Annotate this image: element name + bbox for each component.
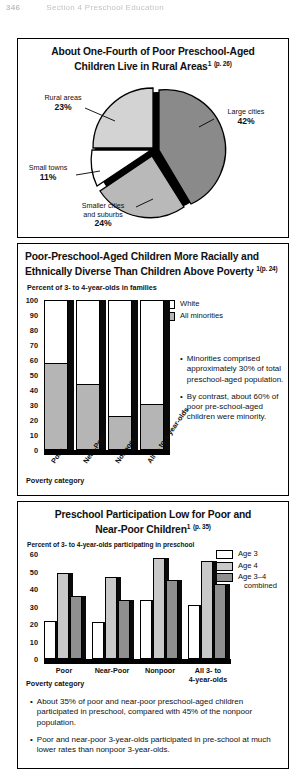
legend-label-age-3-4-combined: Age 3–4combined <box>238 573 277 590</box>
chart-title-3-page-ref: (p. 35) <box>193 523 211 530</box>
bar-depth-shadow <box>68 300 74 450</box>
y-tick-label: 20 <box>20 416 38 425</box>
page-number: 346 <box>6 3 20 12</box>
y-tick-label: 30 <box>20 603 38 612</box>
chart-title-3-superscript: 1 <box>187 523 191 530</box>
bar-age-3 <box>140 600 152 660</box>
bar-depth-shadow <box>100 300 106 450</box>
chart-title-3: Preschool Participation Low for Poor and… <box>26 509 280 537</box>
chart-panel-preschool-participation: Preschool Participation Low for Poor and… <box>17 501 289 769</box>
legend-swatch-age-3-4-combined <box>216 573 233 582</box>
bar-age-4 <box>153 558 165 660</box>
chart-3-y-axis-caption: Percent of 3- to 4-year-olds participati… <box>27 541 288 548</box>
bar-age-3-4-combined <box>118 600 130 660</box>
chart-title-2-line1: Poor-Preschool-Aged Children More Racial… <box>25 251 259 262</box>
chart-title-2-line2: Ethnically Diverse Than Children Above P… <box>25 267 253 278</box>
bar-age-3 <box>92 622 104 659</box>
pie-label-large-cities: Large cities 42% <box>216 108 276 126</box>
pie-label-smaller-cities-value: 24% <box>94 218 111 228</box>
chart-3-plot-area: Age 3 Age 4 Age 3–4combined Poverty cate… <box>18 548 288 693</box>
pie-label-small-towns-value: 11% <box>40 172 57 182</box>
chart-title-3-line1: Preschool Participation Low for Poor and <box>55 509 252 520</box>
bar-age-4 <box>105 577 117 659</box>
chart-2-x-axis-caption: Poverty category <box>26 476 84 485</box>
bar-age-3-4-combined <box>166 580 178 659</box>
y-tick-label: 50 <box>20 371 38 380</box>
running-head-text: Section 4 Preschool Education <box>46 3 164 12</box>
x-axis-baseline <box>44 659 231 664</box>
chart-title-1-line1: About One-Fourth of Poor Preschool-Aged <box>51 46 255 57</box>
chart-title-2-page-ref: (p. 24) <box>260 265 278 272</box>
chart-title-3-line2: Near-Poor Children <box>95 525 187 536</box>
chart-3-bullet-list: • About 35% of poor and near-poor presch… <box>30 697 278 755</box>
chart-title-1-superscript: 1 <box>208 60 212 67</box>
bullet-marker: • <box>180 354 183 385</box>
bullet-item: • By contrast, about 60% of poor pre-sch… <box>180 392 284 423</box>
y-tick-label: 0 <box>20 446 38 455</box>
chart-2-bullet-list: • Minorities comprised approximately 30%… <box>180 354 284 429</box>
chart-title-1: About One-Fourth of Poor Preschool-Aged … <box>26 46 280 74</box>
bar-age-3 <box>44 621 56 660</box>
bullet-marker: • <box>30 697 33 728</box>
chart-2-plot-area: White All minorities • Minorities compri… <box>18 292 288 497</box>
y-tick-label: 10 <box>20 638 38 647</box>
legend-item-age-4: Age 4 <box>216 562 277 571</box>
chart-3-x-axis-caption: Poverty category <box>26 679 84 688</box>
y-tick-label: 40 <box>20 386 38 395</box>
pie-label-rural-areas: Rural areas 23% <box>34 94 92 112</box>
pie-label-rural-areas-value: 23% <box>54 102 71 112</box>
bar-age-4 <box>57 573 69 659</box>
bullet-item: • About 35% of poor and near-poor presch… <box>30 697 278 728</box>
pie-label-small-towns: Small towns 11% <box>20 164 76 182</box>
bullet-text: About 35% of poor and near-poor preschoo… <box>37 697 278 728</box>
legend-label-age-3-4: Age 3–4 <box>238 572 266 581</box>
y-tick-label: 80 <box>20 326 38 335</box>
bar-age-3 <box>188 605 200 659</box>
legend-label-combined: combined <box>238 582 277 591</box>
chart-panel-racial-diversity: Poor-Preschool-Aged Children More Racial… <box>17 243 289 496</box>
y-tick-label: 60 <box>20 550 38 559</box>
bar-segment-all-minorities <box>44 363 68 450</box>
bullet-marker: • <box>30 735 33 755</box>
chart-title-1-line2: Children Live in Rural Areas <box>74 62 207 73</box>
y-tick-label: 70 <box>20 341 38 350</box>
bullet-text: By contrast, about 60% of poor pre-schoo… <box>187 392 284 423</box>
legend-label-age-4: Age 4 <box>238 562 258 571</box>
y-tick-label: 50 <box>20 568 38 577</box>
page-running-header: 346 Section 4 Preschool Education <box>6 1 300 13</box>
bullet-text: Minorities comprised approximately 30% o… <box>187 354 284 385</box>
bullet-item: • Poor and near-poor 3-year-olds partici… <box>30 735 278 755</box>
bar-depth-shadow <box>130 600 134 660</box>
legend-swatch-age-4 <box>216 562 233 571</box>
bar-age-3-4-combined <box>70 596 82 659</box>
y-tick-label: 20 <box>20 620 38 629</box>
y-tick-label: 10 <box>20 431 38 440</box>
chart-panel-rural-areas: About One-Fourth of Poor Preschool-Aged … <box>17 38 289 238</box>
legend-label-age-3: Age 3 <box>238 550 258 559</box>
legend-swatch-age-3 <box>216 550 233 559</box>
y-tick-label: 100 <box>20 296 38 305</box>
pie-label-large-cities-value: 42% <box>237 116 254 126</box>
bar-depth-shadow <box>226 584 230 659</box>
chart-2-y-axis-caption: Percent of 3- to 4-year-olds in families <box>27 283 288 292</box>
y-tick-label: 30 <box>20 401 38 410</box>
x-axis-category-label: Nonpoor <box>134 667 186 675</box>
pie-chart-region: Rural areas 23% Small towns 11% Smaller … <box>18 74 288 224</box>
chart-title-1-page-ref: (p. 26) <box>214 60 232 67</box>
bar-age-4 <box>201 561 213 659</box>
x-axis-baseline <box>44 450 170 455</box>
pie-label-smaller-cities: Smaller cities and suburbs 24% <box>70 202 136 229</box>
legend-label-white: White <box>180 300 199 309</box>
legend-label-all-minorities: All minorities <box>180 312 223 321</box>
bullet-text: Poor and near-poor 3-year-olds participa… <box>37 735 278 755</box>
x-axis-category-label: Poor <box>38 667 90 675</box>
bar-depth-shadow <box>82 596 86 659</box>
chart-title-2: Poor-Preschool-Aged Children More Racial… <box>25 251 280 279</box>
y-tick-label: 0 <box>20 655 38 664</box>
legend-item-age-3: Age 3 <box>216 550 277 559</box>
bullet-item: • Minorities comprised approximately 30%… <box>180 354 284 385</box>
bar-depth-shadow <box>178 580 182 659</box>
bar-depth-shadow <box>132 300 138 450</box>
bar-age-3-4-combined <box>214 584 226 659</box>
x-axis-category-label: Near-Poor <box>86 667 138 675</box>
